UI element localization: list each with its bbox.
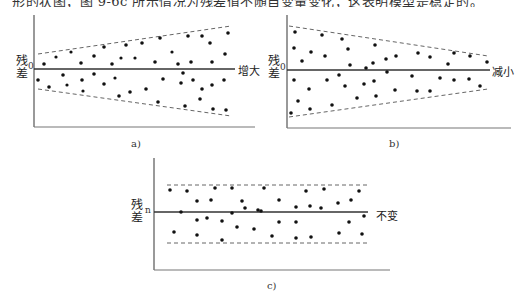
panel-a-direction-label: 增大 xyxy=(238,62,260,78)
lower-envelope xyxy=(289,89,488,117)
panel-c-caption: c) xyxy=(267,280,277,291)
residual-plots xyxy=(0,0,527,302)
lower-envelope xyxy=(38,89,231,116)
ylabel-char: 差 xyxy=(131,212,143,225)
data-points xyxy=(289,30,489,115)
panel-c-zero-label: n xyxy=(145,205,151,215)
panel-b-plot xyxy=(287,15,511,128)
panel-b-direction-label: 减小 xyxy=(492,63,514,79)
ylabel-char: 差 xyxy=(268,68,280,81)
upper-envelope xyxy=(38,26,231,54)
panel-a-plot xyxy=(34,15,255,127)
panel-c-direction-label: 不变 xyxy=(376,207,398,223)
data-points xyxy=(168,186,366,242)
panel-b-zero-label: 0 xyxy=(280,62,286,72)
panel-a-zero-label: 0 xyxy=(28,61,34,71)
data-points xyxy=(36,31,230,112)
panel-c-plot xyxy=(154,158,390,270)
ylabel-char: 差 xyxy=(16,68,28,81)
panel-c-ylabel: 残 差 xyxy=(131,199,143,225)
panel-b-ylabel: 残 差 xyxy=(268,55,280,81)
panel-b-caption: b) xyxy=(389,138,399,149)
panel-a-caption: a) xyxy=(131,138,141,149)
panel-a-ylabel: 残 差 xyxy=(16,55,28,81)
upper-envelope xyxy=(289,26,488,56)
